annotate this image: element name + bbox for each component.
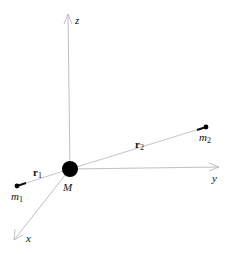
r2-label: r2 bbox=[135, 138, 144, 152]
m1-label-main: m bbox=[11, 190, 19, 202]
m2-label-main: m bbox=[199, 131, 207, 143]
z-axis bbox=[64, 14, 72, 169]
mass-m1-dot bbox=[15, 184, 20, 189]
x-axis bbox=[14, 169, 70, 240]
vector-r1 bbox=[15, 169, 70, 188]
r1-label-sub: 1 bbox=[38, 171, 42, 180]
m1-label-sub: 1 bbox=[19, 195, 23, 204]
z-axis-label: z bbox=[74, 14, 80, 26]
r2-label-sub: 2 bbox=[140, 143, 144, 152]
m1-label: m1 bbox=[11, 190, 23, 204]
r1-label: r1 bbox=[33, 166, 42, 180]
m2-label: m2 bbox=[199, 131, 211, 145]
m2-label-sub: 2 bbox=[207, 136, 211, 145]
central-mass-label: M bbox=[62, 181, 73, 193]
coordinate-diagram: z y x M m1 m2 r1 r2 bbox=[0, 0, 231, 254]
x-axis-label: x bbox=[25, 232, 31, 244]
central-mass-M bbox=[62, 161, 78, 177]
mass-m2-dot bbox=[204, 125, 209, 130]
y-axis bbox=[70, 163, 219, 171]
y-axis-label: y bbox=[211, 172, 217, 184]
